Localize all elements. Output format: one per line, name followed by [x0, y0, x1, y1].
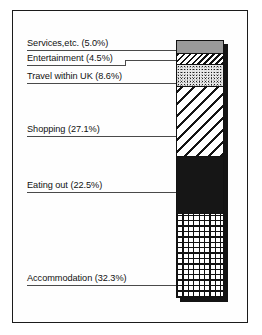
bar-segment-services[interactable] — [177, 41, 223, 54]
segment-label-services: Services,etc. (5.0%) — [27, 38, 108, 48]
segment-label-entertainment: Entertainment (4.5%) — [27, 53, 113, 63]
leader-line-travel-within-uk — [27, 83, 176, 84]
bar-segment-shopping[interactable] — [177, 87, 223, 156]
segment-label-travel-within-uk: Travel within UK (8.6%) — [27, 71, 122, 81]
bar-segment-travel-within-uk[interactable] — [177, 65, 223, 87]
segment-label-shopping: Shopping (27.1%) — [27, 124, 100, 134]
segment-label-accommodation: Accommodation (32.3%) — [27, 273, 127, 283]
leader-line-eating-out — [27, 192, 176, 193]
chart-frame: Services,etc. (5.0%) Entertainment (4.5%… — [12, 10, 248, 323]
leader-line-services — [27, 50, 176, 51]
plot-area: Services,etc. (5.0%) Entertainment (4.5%… — [13, 11, 247, 322]
leader-line-entertainment — [27, 65, 125, 66]
leader-line-entertainment-upper — [125, 60, 176, 61]
stacked-bar — [176, 40, 224, 298]
segment-label-eating-out: Eating out (22.5%) — [27, 180, 102, 190]
bar-segment-eating-out[interactable] — [177, 157, 223, 215]
bar-segment-entertainment[interactable] — [177, 54, 223, 66]
leader-line-shopping — [27, 136, 176, 137]
leader-line-accommodation — [27, 285, 176, 286]
bar-segment-accommodation[interactable] — [177, 214, 223, 297]
